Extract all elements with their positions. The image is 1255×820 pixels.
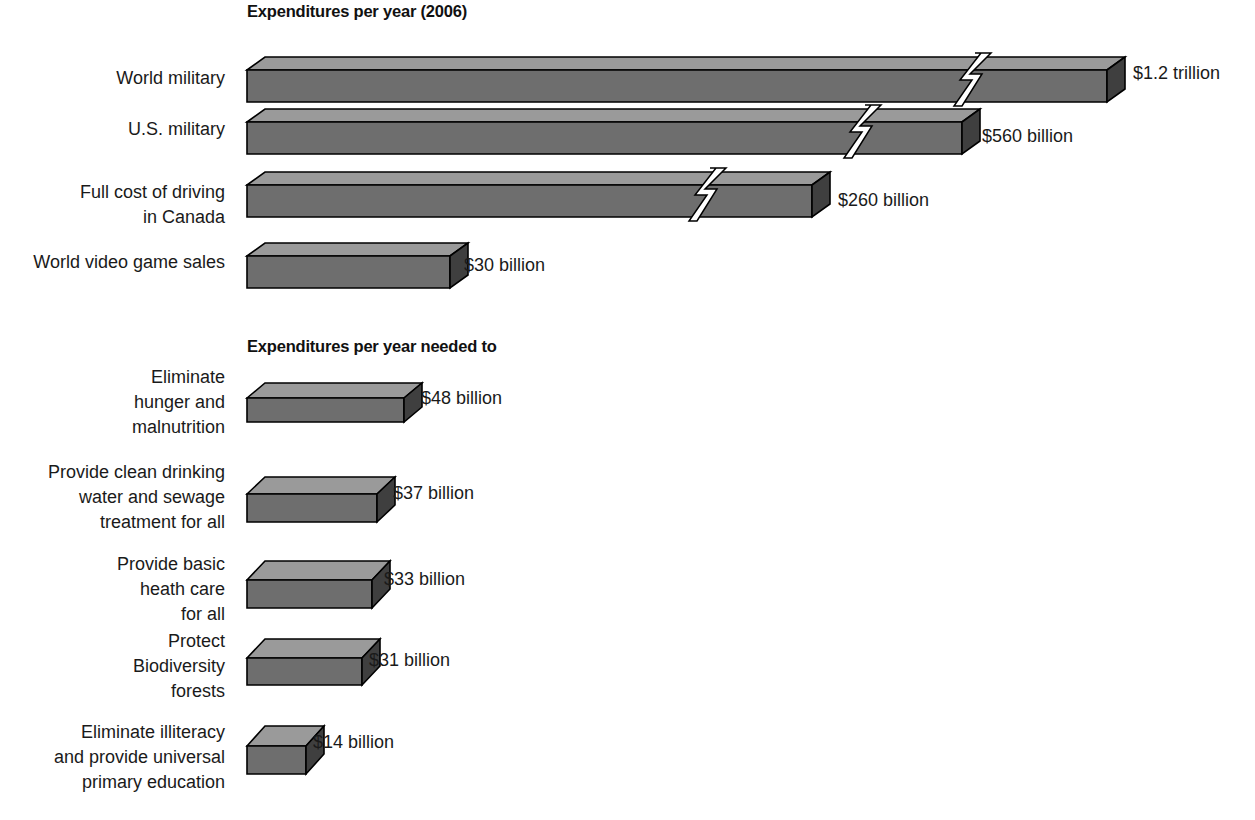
- bar-driving-canada: [240, 166, 850, 236]
- section-title-needed: Expenditures per year needed to: [247, 337, 497, 356]
- row-label-world-military: World military: [0, 66, 225, 91]
- value-label-driving-canada: $260 billion: [838, 191, 929, 209]
- bar-us-military: [240, 102, 1000, 172]
- value-label-eliminate-illiteracy: $14 billion: [313, 733, 394, 751]
- row-label-clean-water: Provide clean drinking water and sewage …: [0, 460, 225, 535]
- value-label-video-game-sales: $30 billion: [464, 256, 545, 274]
- section-title-spending: Expenditures per year (2006): [247, 2, 467, 21]
- expenditures-chart: Expenditures per year (2006) World milit…: [0, 0, 1255, 820]
- row-label-video-game-sales: World video game sales: [0, 250, 225, 275]
- bar-video-game-sales: [240, 234, 490, 304]
- bar-world-military: [240, 26, 1140, 106]
- row-label-us-military: U.S. military: [0, 117, 225, 142]
- row-label-biodiversity: Protect Biodiversity forests: [0, 629, 225, 704]
- row-label-eliminate-illiteracy: Eliminate illiteracy and provide univers…: [0, 720, 225, 795]
- value-label-biodiversity: $31 billion: [369, 651, 450, 669]
- row-label-driving-canada: Full cost of driving in Canada: [0, 180, 225, 230]
- value-label-eliminate-hunger: $48 billion: [421, 389, 502, 407]
- row-label-basic-health-care: Provide basic heath care for all: [0, 552, 225, 627]
- bar-eliminate-hunger: [240, 372, 450, 434]
- value-label-world-military: $1.2 trillion: [1133, 64, 1220, 82]
- value-label-us-military: $560 billion: [982, 127, 1073, 145]
- value-label-basic-health-care: $33 billion: [384, 570, 465, 588]
- value-label-clean-water: $37 billion: [393, 484, 474, 502]
- row-label-eliminate-hunger: Eliminate hunger and malnutrition: [0, 365, 225, 440]
